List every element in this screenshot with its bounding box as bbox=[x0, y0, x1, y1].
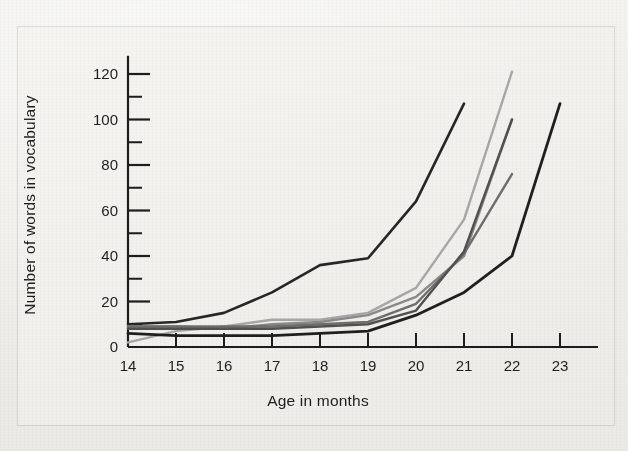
series-line-child-4 bbox=[128, 174, 512, 326]
y-tick-label: 120 bbox=[76, 65, 118, 82]
y-tick-label: 60 bbox=[76, 202, 118, 219]
y-tick-label: 40 bbox=[76, 247, 118, 264]
series-line-child-6 bbox=[128, 104, 560, 336]
x-tick-label: 20 bbox=[401, 357, 431, 374]
x-tick-label: 16 bbox=[209, 357, 239, 374]
x-tick-label: 21 bbox=[449, 357, 479, 374]
x-tick-label: 22 bbox=[497, 357, 527, 374]
y-tick-label: 0 bbox=[76, 338, 118, 355]
series-line-child-2 bbox=[128, 72, 512, 343]
x-axis-title: Age in months bbox=[228, 392, 408, 410]
figure-page: Number of words in vocabulary Age in mon… bbox=[0, 0, 628, 451]
x-tick-label: 17 bbox=[257, 357, 287, 374]
x-tick-label: 14 bbox=[113, 357, 143, 374]
x-tick-label: 18 bbox=[305, 357, 335, 374]
x-tick-label: 15 bbox=[161, 357, 191, 374]
y-tick-label: 80 bbox=[76, 156, 118, 173]
y-axis-title: Number of words in vocabulary bbox=[21, 95, 39, 315]
x-tick-label: 23 bbox=[545, 357, 575, 374]
series-layer bbox=[128, 72, 560, 343]
y-tick-label: 100 bbox=[76, 111, 118, 128]
axis-layer bbox=[128, 56, 598, 347]
y-tick-label: 20 bbox=[76, 293, 118, 310]
series-line-child-1 bbox=[128, 104, 464, 325]
x-tick-label: 19 bbox=[353, 357, 383, 374]
